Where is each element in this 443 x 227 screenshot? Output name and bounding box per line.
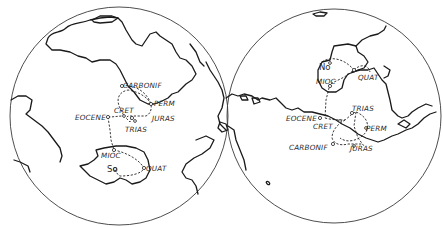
right-label-carbonif: CARBONIF — [289, 143, 328, 152]
left-label-eocene: EOCENE — [75, 113, 106, 122]
left-label-carbonif: CARBONIF — [123, 81, 162, 90]
left-label-mioc: MIOC — [101, 151, 121, 160]
right-point-cret — [339, 120, 342, 123]
right-label-cret: CRET — [313, 122, 333, 131]
right-label-juras: JURAS — [348, 144, 373, 153]
left-coastline-india — [206, 62, 226, 130]
left-point-perm — [149, 102, 152, 105]
right-coastline-top-island — [313, 12, 327, 16]
polar-wander-figure: CARBONIF PERM CRET JURAS TRIAS EOCENE MI… — [0, 0, 443, 227]
right-label-trias: TRIAS — [352, 104, 374, 113]
left-globe: CARBONIF PERM CRET JURAS TRIAS EOCENE MI… — [10, 7, 228, 225]
right-label-mioc: MIOC — [316, 77, 336, 86]
right-label-north-pole: No — [319, 62, 331, 72]
right-label-perm: PERM — [366, 124, 387, 133]
left-label-south-pole: So — [107, 164, 118, 174]
right-coastline-north-coast — [356, 26, 386, 46]
right-point-quat — [352, 68, 355, 71]
left-globe-outline — [10, 7, 228, 225]
left-coastline-africa — [46, 17, 196, 104]
left-label-juras: JURAS — [150, 114, 175, 123]
map-canvas: CARBONIF PERM CRET JURAS TRIAS EOCENE MI… — [0, 0, 443, 227]
left-coastline-australia — [182, 136, 214, 194]
right-point-eocene — [318, 116, 321, 119]
left-point-juras — [130, 116, 133, 119]
right-globe: No QUAT MIOC TRIAS EOCENE CRET PERM CARB… — [226, 9, 441, 223]
left-label-quat: QUAT — [146, 164, 167, 173]
left-coastline-south-america — [11, 96, 62, 162]
right-coastline-inlet — [398, 120, 410, 128]
left-point-cret — [123, 115, 126, 118]
right-coastline-hudson — [384, 66, 390, 78]
left-label-trias: TRIAS — [125, 125, 147, 134]
left-point-trias — [134, 120, 137, 123]
right-point-carbonif — [331, 142, 334, 145]
right-label-quat: QUAT — [358, 73, 379, 82]
right-coastline-small-island — [266, 181, 271, 185]
right-coastline-eurasia — [226, 94, 436, 142]
left-coastline-arabia — [190, 44, 204, 66]
right-coastline-edge — [228, 126, 246, 170]
left-point-eocene — [106, 115, 109, 118]
left-label-perm: PERM — [154, 99, 175, 108]
left-label-cret: CRET — [114, 106, 134, 115]
